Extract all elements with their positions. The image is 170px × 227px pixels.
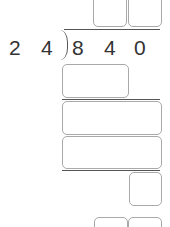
subtraction-line-2 [62,170,160,171]
dividend-digit-hundreds: 8 [72,37,84,58]
answer-tens-input[interactable] [94,217,128,227]
product-step1-input[interactable] [62,64,129,98]
difference-step2-input[interactable] [129,172,162,206]
divisor-digit-ones: 4 [41,37,53,58]
divisor-digit-tens: 2 [9,37,21,58]
answer-ones-input[interactable] [128,217,162,227]
division-bracket [60,30,68,60]
quotient-ones-input[interactable] [128,0,162,27]
division-bar [64,29,160,30]
product-step2-input[interactable] [62,136,162,169]
subtraction-line-1 [62,99,160,100]
dividend-digit-tens: 4 [104,37,116,58]
dividend-digit-ones: 0 [134,37,146,58]
difference-step1-input[interactable] [62,101,162,135]
quotient-tens-input[interactable] [93,0,127,27]
